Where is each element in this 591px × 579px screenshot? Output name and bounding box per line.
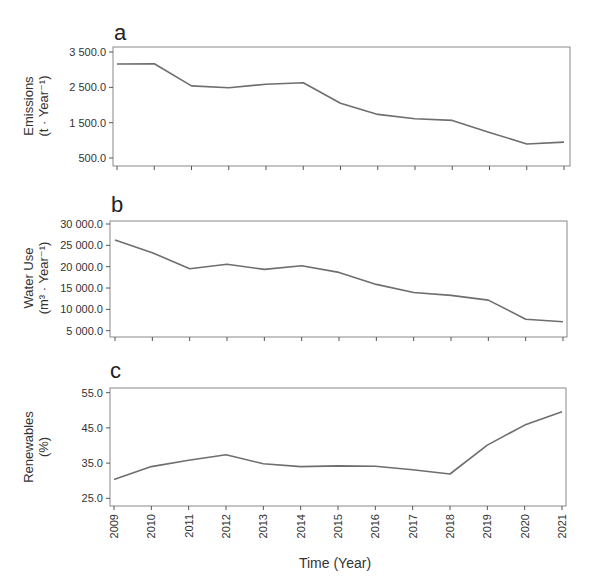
emissions-line [117, 64, 564, 144]
y-tick-label: 20 000.0 [60, 261, 103, 273]
y-axis-title-line1: Water Use [21, 248, 36, 309]
x-tick-label: 2016 [369, 514, 381, 538]
y-tick-label: 25.0 [82, 492, 103, 504]
y-tick-label: 2 500.0 [69, 81, 106, 93]
x-tick-label: 2014 [295, 514, 307, 538]
x-axis-tick-labels: 2009201020112012201320142015201620172018… [108, 514, 568, 538]
x-axis-title: Time (Year) [299, 555, 371, 571]
plot-frame-a [113, 47, 570, 166]
x-axis-ticks-c [114, 506, 562, 510]
panel-letter-b: b [111, 192, 123, 217]
panel-b-water-use: b Water Use (m³ · Year⁻¹) 5 000.010 000.… [21, 192, 567, 341]
y-axis-title-b: Water Use (m³ · Year⁻¹) [21, 242, 51, 315]
water-use-line [115, 240, 563, 322]
y-tick-label: 35.0 [82, 457, 103, 469]
y-tick-label: 10 000.0 [60, 303, 103, 315]
y-tick-label: 3 500.0 [69, 46, 106, 58]
x-tick-label: 2009 [108, 514, 120, 538]
y-axis-ticks-b: 5 000.010 000.015 000.020 000.025 000.03… [60, 218, 110, 337]
x-tick-label: 2015 [332, 514, 344, 538]
y-axis-title-line2: (m³ · Year⁻¹) [36, 242, 51, 315]
y-axis-title-a: Emissions (t · Year⁻¹) [21, 75, 51, 136]
x-tick-label: 2020 [519, 514, 531, 538]
x-tick-label: 2013 [257, 514, 269, 538]
y-axis-title-line2: (%) [36, 437, 51, 457]
y-tick-label: 15 000.0 [60, 282, 103, 294]
y-axis-ticks-c: 25.035.045.055.0 [82, 387, 110, 505]
y-axis-title-line1: Renewables [21, 411, 36, 483]
x-tick-label: 2019 [481, 514, 493, 538]
y-tick-label: 500.0 [78, 152, 106, 164]
plot-frame-c [110, 388, 566, 506]
panel-letter-c: c [110, 358, 121, 383]
y-tick-label: 55.0 [82, 387, 103, 399]
x-axis-ticks-b [115, 337, 563, 341]
x-tick-label: 2021 [556, 514, 568, 538]
x-tick-label: 2010 [145, 514, 157, 538]
y-tick-label: 1 500.0 [69, 117, 106, 129]
figure: a Emissions (t · Year⁻¹) 500.01 500.02 5… [0, 0, 591, 579]
renewables-line [114, 412, 562, 480]
y-tick-label: 30 000.0 [60, 218, 103, 230]
plot-frame-b [110, 221, 567, 337]
x-axis-ticks-a [117, 166, 564, 170]
y-axis-title-line2: (t · Year⁻¹) [36, 75, 51, 136]
y-tick-label: 25 000.0 [60, 239, 103, 251]
panel-letter-a: a [114, 20, 127, 45]
y-tick-label: 5 000.0 [66, 325, 103, 337]
y-tick-label: 45.0 [82, 422, 103, 434]
y-axis-title-line1: Emissions [21, 76, 36, 136]
panel-c-renewables: c Renewables (%) 25.035.045.055.0 200920… [21, 358, 568, 538]
panel-a-emissions: a Emissions (t · Year⁻¹) 500.01 500.02 5… [21, 20, 570, 170]
x-tick-label: 2018 [444, 514, 456, 538]
x-tick-label: 2012 [220, 514, 232, 538]
x-tick-label: 2017 [407, 514, 419, 538]
y-axis-title-c: Renewables (%) [21, 411, 51, 483]
y-axis-ticks-a: 500.01 500.02 500.03 500.0 [69, 46, 113, 164]
x-tick-label: 2011 [183, 514, 195, 538]
